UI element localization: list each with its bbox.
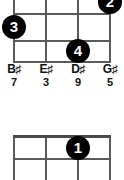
note-letter-4: G (103, 62, 112, 76)
accidental-sharp-2: ♯ (47, 62, 53, 76)
fret-line-2 (13, 40, 111, 42)
note-column-4: G♯ 5 (95, 63, 124, 88)
note-name-4: G♯ (95, 63, 124, 76)
note-label-row: B♯ 7 E♯ 3 D♯ 9 G♯ 5 (0, 63, 124, 91)
lower-chord-diagram[interactable]: 1 (0, 90, 124, 180)
note-name-2: E♯ (31, 63, 61, 76)
scale-degree-3: 9 (63, 76, 93, 88)
finger-dot-2[interactable]: 2 (98, 0, 122, 14)
scale-degree-4: 5 (95, 76, 124, 88)
fret-line-1 (13, 13, 111, 15)
scale-degree-1: 7 (0, 76, 29, 88)
note-column-2: E♯ 3 (31, 63, 61, 88)
finger-dot-3[interactable]: 3 (2, 15, 26, 39)
note-name-1: B♯ (0, 63, 29, 76)
chord-diagram-page: 2 3 4 B♯ 7 E♯ 3 D♯ 9 G♯ 5 (0, 0, 124, 180)
note-name-3: D♯ (63, 63, 93, 76)
note-column-1: B♯ 7 (0, 63, 29, 88)
accidental-sharp-4: ♯ (112, 62, 118, 76)
accidental-sharp-3: ♯ (79, 62, 85, 76)
upper-chord-diagram[interactable]: 2 3 4 B♯ 7 E♯ 3 D♯ 9 G♯ 5 (0, 0, 124, 90)
finger-dot-4[interactable]: 4 (66, 39, 90, 63)
fretboard-grid-lower: 1 (0, 90, 124, 180)
note-letter-2: E (39, 62, 47, 76)
note-column-3: D♯ 9 (63, 63, 93, 88)
string-2 (45, 0, 47, 62)
finger-dot-1-lower[interactable]: 1 (66, 136, 90, 160)
fret-line-2-lower (13, 158, 111, 160)
accidental-sharp-1: ♯ (15, 62, 21, 76)
fret-line-1-lower (13, 135, 111, 138)
scale-degree-2: 3 (31, 76, 61, 88)
